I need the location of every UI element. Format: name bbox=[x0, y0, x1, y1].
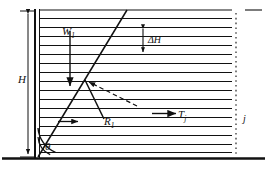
label-reaction: R1 bbox=[104, 116, 114, 130]
label-layer-index: j bbox=[243, 114, 246, 124]
label-tension-subscript: j bbox=[184, 114, 186, 123]
label-weight-subscript: 1 bbox=[71, 31, 75, 40]
label-reaction-subscript: 1 bbox=[111, 121, 115, 130]
label-reaction-symbol: R bbox=[104, 115, 111, 127]
label-angle: θ bbox=[45, 141, 50, 152]
label-delta-h: ΔH bbox=[148, 35, 161, 45]
slope-stability-diagram: H W1 ΔH R1 Tj j θ bbox=[0, 0, 267, 169]
diagram-canvas bbox=[0, 0, 267, 169]
label-weight: W1 bbox=[62, 26, 75, 40]
label-tension: Tj bbox=[178, 109, 186, 123]
label-weight-symbol: W bbox=[62, 25, 71, 37]
label-height: H bbox=[18, 74, 26, 85]
retaining-wall bbox=[35, 9, 39, 158]
